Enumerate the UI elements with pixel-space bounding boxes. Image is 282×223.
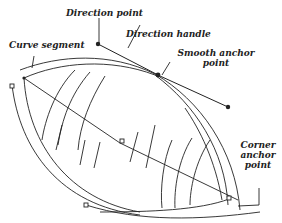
direction-point-top (96, 42, 100, 46)
bezier-diagram: Direction point Direction handle Curve s… (0, 0, 282, 223)
label-curve-segment: Curve segment (9, 40, 85, 50)
label-corner-anchor: Corner anchor point (236, 140, 280, 170)
anchor-square-left (10, 84, 14, 88)
anchor-square-bottom (84, 203, 88, 207)
curve-right-inner (155, 75, 228, 205)
curve-right-outer (155, 74, 240, 210)
curve-left-inner (24, 78, 140, 212)
curve-bottom-inner (100, 199, 229, 212)
label-smooth-anchor: Smooth anchor point (171, 48, 261, 68)
smooth-anchor-point (156, 73, 161, 78)
curve-left-outer (12, 85, 140, 215)
anchor-square-center (120, 139, 124, 143)
direction-point-bottom (226, 105, 230, 109)
label-direction-handle: Direction handle (126, 29, 211, 39)
curve-bottom-outer (86, 205, 260, 218)
corner-anchor-square (227, 196, 231, 200)
label-direction-point: Direction point (66, 8, 143, 18)
